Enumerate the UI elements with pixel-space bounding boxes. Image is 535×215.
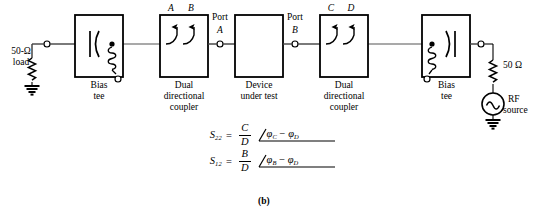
coupler-right-label-line1: Dual bbox=[312, 80, 376, 91]
terminal-load bbox=[44, 41, 50, 47]
port-b-label-line2: B bbox=[279, 25, 311, 36]
equation-s12-lhs: S12 bbox=[196, 155, 222, 167]
terminal-source bbox=[478, 41, 484, 47]
rf-source-label-line1: RF bbox=[508, 94, 520, 105]
source-branch bbox=[489, 44, 496, 93]
load-label-line2: load bbox=[4, 57, 38, 68]
dut-label-line2: under test bbox=[225, 91, 293, 102]
load-label-line1: 50-Ω bbox=[4, 46, 38, 57]
block-bias-tee-right bbox=[422, 15, 470, 77]
port-a-label-line2: A bbox=[204, 25, 236, 36]
equation-s12-equals: = bbox=[222, 156, 236, 167]
coupler-left-tap-a-label: A bbox=[162, 3, 180, 14]
dot-junction-left bbox=[109, 41, 114, 46]
ground-source bbox=[486, 115, 501, 129]
equation-s12-denominator: D bbox=[239, 161, 251, 174]
block-coupler-left bbox=[160, 15, 208, 77]
figure-caption: (b) bbox=[258, 196, 270, 206]
dot-junction-right bbox=[429, 41, 434, 46]
terminal-port-a bbox=[217, 41, 223, 47]
figure-container: 50-Ω load Bias tee A B Dual directional … bbox=[0, 0, 535, 215]
port-b-label-line1: Port bbox=[279, 12, 311, 23]
coupler-left-tap-b-label: B bbox=[182, 3, 200, 14]
equation-s22-phase-text: φC − φD bbox=[267, 128, 299, 140]
terminal-bias-right bbox=[424, 76, 430, 82]
circuit-diagram bbox=[0, 0, 535, 215]
bias-tee-left-label-line2: tee bbox=[75, 91, 123, 102]
block-dut bbox=[235, 15, 283, 77]
coupler-right-label-line3: coupler bbox=[312, 102, 376, 113]
equation-s22-numerator: C bbox=[239, 123, 250, 135]
coupler-left-label-line3: coupler bbox=[152, 102, 216, 113]
equation-s22-fraction: C D bbox=[239, 123, 251, 147]
equation-s12: S12 = B D φB − φD bbox=[196, 148, 346, 174]
coupler-left-label-line2: directional bbox=[146, 91, 222, 102]
rf-source-label-line2: source bbox=[503, 105, 528, 116]
equation-s22-angle: φC − φD bbox=[258, 127, 336, 143]
equation-s12-fraction: B D bbox=[239, 149, 251, 173]
equation-s22-lhs: S22 bbox=[196, 129, 222, 141]
bias-tee-right-label-line1: Bias bbox=[438, 80, 455, 91]
equation-s22-equals: = bbox=[222, 130, 236, 141]
source-resistor-label: 50 Ω bbox=[503, 60, 522, 71]
equation-s12-angle: φB − φD bbox=[258, 153, 336, 169]
bias-tee-left-label-line1: Bias bbox=[75, 80, 123, 91]
equation-s22-denominator: D bbox=[239, 135, 251, 148]
equation-s12-numerator: B bbox=[240, 149, 250, 161]
bias-tee-right-label-line2: tee bbox=[441, 91, 452, 102]
coupler-right-label-line2: directional bbox=[306, 91, 382, 102]
coupler-right-tap-c-label: C bbox=[322, 3, 340, 14]
dut-label-line1: Device bbox=[229, 80, 289, 91]
port-a-label-line1: Port bbox=[204, 12, 236, 23]
equation-s22: S22 = C D φC − φD bbox=[196, 122, 346, 148]
coupler-right-tap-d-label: D bbox=[342, 3, 360, 14]
coupler-left-label-line1: Dual bbox=[152, 80, 216, 91]
equation-block: S22 = C D φC − φD S12 = B D bbox=[196, 122, 346, 174]
block-coupler-right bbox=[320, 15, 368, 77]
equation-s12-phase-text: φB − φD bbox=[267, 154, 299, 166]
terminal-port-b bbox=[292, 41, 298, 47]
